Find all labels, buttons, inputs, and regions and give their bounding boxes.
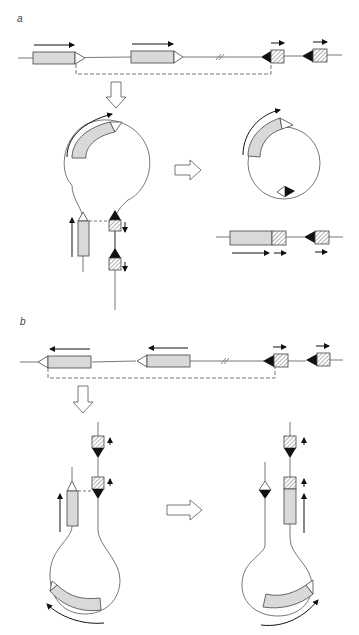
down-arrow-icon xyxy=(106,82,126,108)
panel-a xyxy=(18,42,343,310)
gene-segment-1 xyxy=(33,45,85,64)
panel-b xyxy=(20,346,343,625)
rss-element-1 xyxy=(263,347,288,367)
rss-element-2 xyxy=(302,42,327,62)
loop-intermediate-a xyxy=(64,114,150,310)
gene-segment-2 xyxy=(131,44,183,63)
circular-excision-product xyxy=(243,110,320,199)
rss-element-2 xyxy=(306,346,330,366)
recombination-bracket xyxy=(76,63,271,74)
inverted-loop-product xyxy=(242,422,318,625)
recombination-bracket xyxy=(48,367,275,378)
gene-segment-1 xyxy=(38,349,91,368)
diagram-canvas xyxy=(0,0,359,635)
recombined-linear-chromosome xyxy=(216,231,343,253)
right-arrow-icon xyxy=(167,500,202,520)
loop-intermediate-b xyxy=(47,422,120,623)
right-arrow-icon xyxy=(175,160,201,180)
gene-segment-2 xyxy=(137,348,190,367)
down-arrow-icon xyxy=(73,386,93,413)
rss-element-1 xyxy=(261,43,284,63)
